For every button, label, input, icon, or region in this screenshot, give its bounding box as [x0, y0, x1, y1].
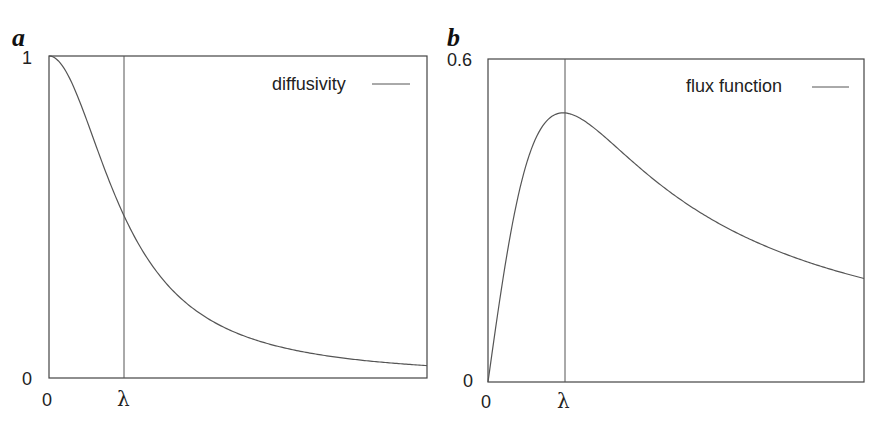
legend-label-a: diffusivity [272, 74, 346, 94]
x-lambda-tick-b: λ [557, 389, 570, 413]
legend-label-b: flux function [686, 76, 782, 96]
y-min-tick-b: 0 [463, 371, 473, 391]
panel-label-b: b [447, 23, 460, 52]
flux-function-curve [488, 113, 864, 382]
x-min-tick-b: 0 [481, 392, 491, 412]
figure: a 1 0 0 λ diffusivity b 0.6 0 0 λ flux f… [0, 0, 884, 433]
diffusivity-curve [49, 56, 427, 366]
y-max-tick-a: 1 [22, 48, 32, 68]
plot-frame-a [49, 56, 427, 378]
panel-a: a 1 0 0 λ diffusivity [12, 23, 427, 411]
panel-b: b 0.6 0 0 λ flux function [447, 23, 864, 413]
plot-frame-b [488, 59, 864, 382]
x-min-tick-a: 0 [42, 390, 52, 410]
x-lambda-tick-a: λ [117, 387, 130, 411]
y-min-tick-a: 0 [22, 369, 32, 389]
y-max-tick-b: 0.6 [447, 50, 472, 70]
